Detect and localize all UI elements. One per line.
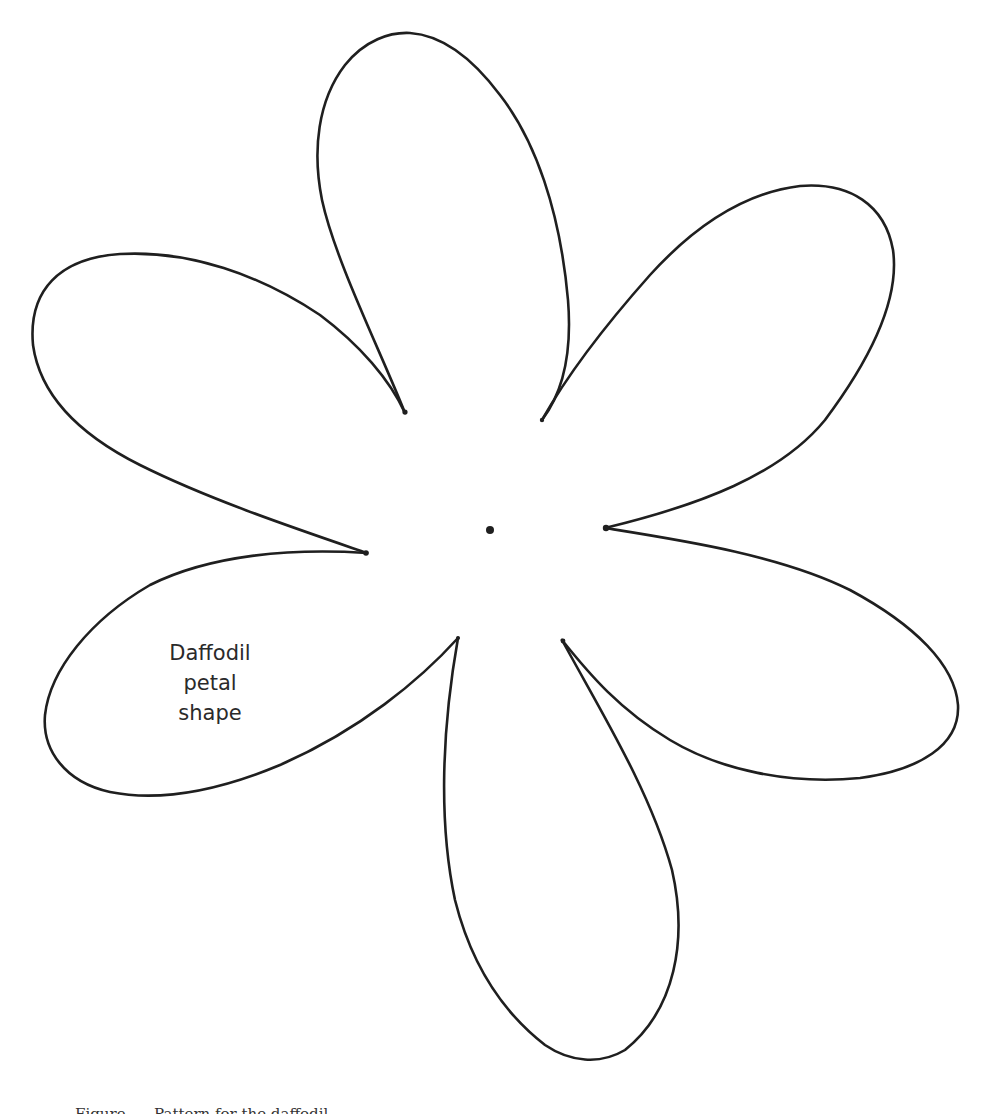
petal-upper-right — [542, 186, 894, 528]
petal-top — [317, 33, 569, 420]
petal-upper-left — [32, 254, 405, 553]
petal-label: Daffodil petal shape — [140, 638, 280, 728]
center-dot — [486, 526, 494, 534]
petal-right — [562, 528, 958, 780]
petal-label-line-2: petal — [140, 668, 280, 698]
petal-bottom — [444, 638, 678, 1060]
figure-caption: Figure Pattern for the daffodil — [75, 1103, 328, 1114]
petal-tip-marks — [363, 409, 609, 643]
petal-label-line-3: shape — [140, 698, 280, 728]
petal-label-line-1: Daffodil — [140, 638, 280, 668]
daffodil-pattern-diagram — [0, 0, 982, 1114]
